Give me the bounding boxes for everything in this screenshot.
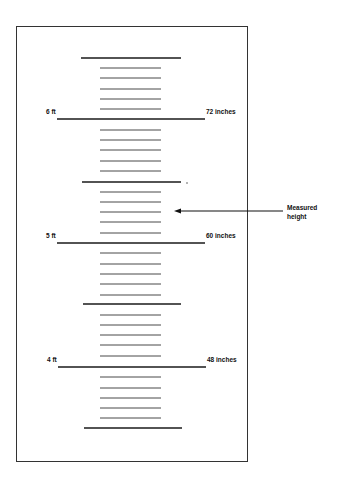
foot-label: 4 ft	[47, 356, 58, 363]
foot-label: 6 ft	[46, 108, 57, 115]
height-chart-diagram: 6 ft72 inches5 ft60 inches4 ft48 inches …	[0, 0, 337, 483]
measured-height-annotation: Measured height	[174, 204, 317, 221]
foot-marker-lines: 6 ft72 inches5 ft60 inches4 ft48 inches	[46, 108, 237, 367]
inch-label: 60 inches	[206, 232, 236, 239]
stray-dot	[186, 182, 188, 184]
measured-label: Measured	[287, 204, 317, 211]
arrow-left-icon	[174, 208, 181, 213]
inch-label: 48 inches	[207, 356, 237, 363]
height-label: height	[287, 213, 307, 221]
chart-frame	[17, 27, 248, 462]
foot-label: 5 ft	[46, 232, 57, 239]
inch-label: 72 inches	[206, 108, 236, 115]
